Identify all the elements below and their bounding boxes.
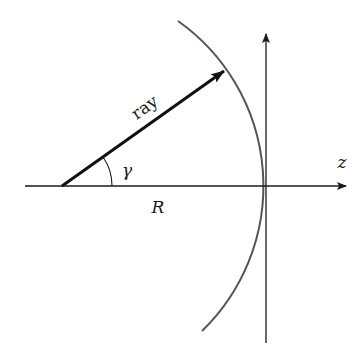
- angle-label: γ: [122, 160, 133, 180]
- ray-arrow: [62, 71, 224, 186]
- circular-arc: [178, 21, 263, 331]
- radius-label: R: [151, 197, 165, 217]
- z-axis-label: z: [337, 152, 348, 172]
- ray-diagram: ray γ R z: [0, 0, 362, 357]
- angle-arc: [103, 157, 112, 186]
